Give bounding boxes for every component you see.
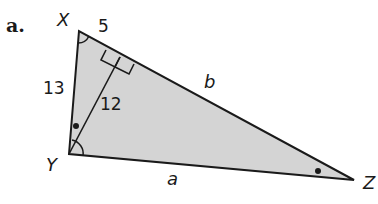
- side-label-a: a: [167, 170, 178, 188]
- segment-label-5: 5: [98, 18, 109, 35]
- side-label-13: 13: [43, 80, 65, 97]
- part-label: a.: [6, 16, 25, 35]
- vertex-label-y: Y: [46, 156, 57, 174]
- triangle-figure: a. X Y Z 5 13 12 b a: [0, 0, 378, 204]
- altitude-label-12: 12: [100, 96, 122, 113]
- angle-dot-z: [315, 168, 321, 174]
- angle-dot-y: [73, 123, 79, 129]
- vertex-label-x: X: [57, 11, 69, 29]
- side-label-b: b: [204, 73, 215, 91]
- vertex-label-z: Z: [363, 174, 375, 192]
